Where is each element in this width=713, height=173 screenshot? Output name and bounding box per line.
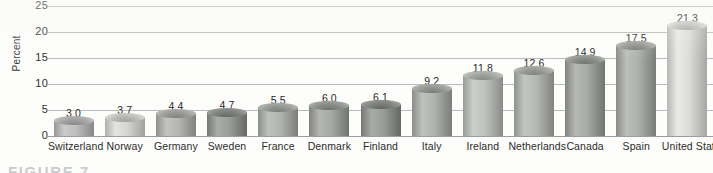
y-axis-tick-20: 20 (24, 25, 48, 37)
x-axis-label-finland: Finland (355, 140, 406, 152)
y-axis-tick-15: 15 (24, 51, 48, 63)
x-axis-label-france: France (253, 140, 304, 152)
bar-canada: 14.9 (565, 47, 605, 136)
x-axis-label-ireland: Ireland (457, 140, 508, 152)
bar-top-ellipse (309, 101, 349, 110)
x-axis-label-spain: Spain (611, 140, 662, 152)
x-axis-label-norway: Norway (99, 140, 150, 152)
bar-body (54, 120, 94, 136)
bar-top-ellipse (667, 21, 707, 30)
bar-finland: 6.1 (361, 92, 401, 136)
bar-top-ellipse (514, 66, 554, 75)
bar-body (361, 104, 401, 136)
figure-caption: FIGURE 7 (8, 164, 90, 173)
bar-body (412, 88, 452, 136)
x-axis-labels: SwitzerlandNorwayGermanySwedenFranceDenm… (48, 140, 713, 156)
bar-united-states: 21.3 (667, 13, 707, 136)
bar-switzerland: 3.0 (54, 108, 94, 136)
bar-denmark: 6.0 (309, 93, 349, 136)
bar-top-ellipse (361, 100, 401, 109)
bar-top-ellipse (258, 103, 298, 112)
bar-netherlands: 12.6 (514, 58, 554, 136)
bar-france: 5.5 (258, 95, 298, 136)
bar-body (514, 70, 554, 136)
y-axis-title: Percent (11, 22, 22, 86)
axis-baseline (48, 136, 713, 137)
x-axis-label-sweden: Sweden (201, 140, 252, 152)
bar-body (207, 112, 247, 136)
bar-top-ellipse (207, 108, 247, 117)
bar-body (667, 25, 707, 136)
x-axis-label-denmark: Denmark (304, 140, 355, 152)
bar-top-ellipse (565, 55, 605, 64)
bar-body (258, 107, 298, 136)
bar-spain: 17.5 (616, 33, 656, 136)
bar-sweden: 4.7 (207, 100, 247, 136)
bar-top-ellipse (105, 113, 145, 122)
x-axis-label-canada: Canada (560, 140, 611, 152)
bar-body (565, 59, 605, 136)
bar-body (309, 105, 349, 136)
y-axis-tick-10: 10 (24, 77, 48, 89)
bar-ireland: 11.8 (463, 63, 503, 136)
bar-germany: 4.4 (156, 101, 196, 136)
x-axis-label-switzerland: Switzerland (48, 140, 99, 152)
bar-body (463, 75, 503, 136)
bar-top-ellipse (463, 71, 503, 80)
bar-top-ellipse (412, 84, 452, 93)
bar-top-ellipse (616, 41, 656, 50)
bar-italy: 9.2 (412, 76, 452, 136)
bar-body (616, 45, 656, 136)
bar-chart: Percent 25 20 15 10 5 0 3.03.74.44.75.56… (0, 0, 713, 173)
bar-top-ellipse (156, 109, 196, 118)
y-axis-tick-0: 0 (24, 129, 48, 141)
x-axis-label-italy: Italy (406, 140, 457, 152)
x-axis-label-germany: Germany (150, 140, 201, 152)
bar-top-ellipse (54, 116, 94, 125)
bar-body (105, 117, 145, 136)
x-axis-label-united-states: United States (662, 140, 713, 152)
y-axis-tick-5: 5 (24, 103, 48, 115)
bar-body (156, 113, 196, 136)
y-axis-tick-25: 25 (24, 0, 48, 11)
bar-norway: 3.7 (105, 105, 145, 136)
plot-area: 3.03.74.44.75.56.06.19.211.812.614.917.5… (48, 6, 713, 136)
x-axis-label-netherlands: Netherlands (508, 140, 559, 152)
